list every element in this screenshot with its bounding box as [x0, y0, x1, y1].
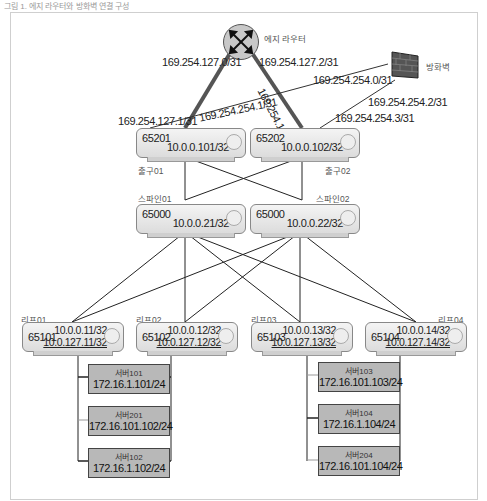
- firewall-icon: [388, 50, 420, 80]
- link-label: 169.254.127.2/31: [259, 56, 338, 68]
- router-icon: [447, 328, 463, 344]
- router-icon: [340, 210, 356, 226]
- ip-label: 10.0.0.101/32: [167, 141, 229, 153]
- link-label: 169.254.254.3/31: [335, 112, 414, 124]
- server-name: 서버101: [89, 367, 169, 378]
- server-name: 서버103: [319, 365, 399, 376]
- leaf-router-4: 65104 10.0.0.14/32 10.0.127.14/32: [365, 322, 467, 352]
- edge-router-label: 에지 라우터: [264, 32, 306, 44]
- server-name: 서버201: [89, 409, 169, 420]
- server-ip: 172.16.1.101/24: [89, 378, 169, 390]
- ip-label: 10.0.0.12/32: [167, 324, 221, 336]
- server-ip: 172.16.101.102/24: [89, 420, 169, 432]
- router-base: [261, 233, 349, 238]
- server-ip: 172.16.1.102/24: [89, 462, 169, 474]
- router-base: [261, 157, 349, 162]
- router-icon: [340, 134, 356, 150]
- router-base: [147, 233, 235, 238]
- server-ip: 172.16.1.104/24: [319, 418, 399, 430]
- firewall-label: 방화벽: [426, 60, 450, 72]
- router-base: [376, 351, 456, 356]
- router-icon: [226, 210, 242, 226]
- server-box: 서버101 172.16.1.101/24: [88, 364, 170, 394]
- router-base: [262, 351, 342, 356]
- exit-label: 출구01: [138, 164, 163, 176]
- ip-label: 10.0.0.11/32: [54, 324, 107, 336]
- asn-label: 65000: [142, 208, 171, 220]
- spine-label: 스파인02: [316, 192, 349, 204]
- ip-label: 10.0.127.11/32: [43, 336, 107, 348]
- router-base: [147, 351, 227, 356]
- link-label: 169.254.254.0/31: [313, 74, 392, 86]
- ip-label: 10.0.0.21/32: [173, 217, 229, 229]
- leaf-router-1: 65101 10.0.0.11/32 10.0.127.11/32: [22, 322, 124, 352]
- link-label: 169.254.127.0/31: [162, 56, 241, 68]
- server-box: 서버204 172.16.101.104/24: [318, 446, 400, 476]
- link-label: 169.254.254.2/31: [368, 96, 447, 108]
- exit-label: 출구02: [325, 164, 350, 176]
- ip-label: 10.0.0.13/32: [282, 324, 336, 336]
- server-ip: 172.16.101.103/24: [319, 376, 399, 388]
- router-icon: [333, 328, 349, 344]
- spine-label: 스파인01: [138, 192, 171, 204]
- router-base: [33, 351, 113, 356]
- leaf-router-2: 65102 10.0.0.12/32 10.0.127.12/32: [136, 322, 238, 352]
- leaf-router-3: 65103 10.0.0.13/32 10.0.127.13/32: [251, 322, 353, 352]
- ip-label: 10.0.127.12/32: [157, 336, 221, 348]
- ip-label: 10.0.0.102/32: [281, 141, 343, 153]
- server-box: 서버104 172.16.1.104/24: [318, 404, 400, 434]
- router-icon: [218, 328, 234, 344]
- server-name: 서버102: [89, 451, 169, 462]
- ip-label: 10.0.127.13/32: [272, 336, 336, 348]
- server-name: 서버204: [319, 449, 399, 460]
- exit-router-2: 65202 10.0.0.102/32: [250, 128, 360, 158]
- edge-router-icon: [223, 24, 259, 60]
- spine-router-1: 65000 10.0.0.21/32: [136, 204, 246, 234]
- ip-label: 10.0.127.14/32: [386, 336, 450, 348]
- server-box: 서버102 172.16.1.102/24: [88, 448, 170, 478]
- router-icon: [104, 328, 120, 344]
- server-name: 서버104: [319, 407, 399, 418]
- asn-label: 65000: [256, 208, 285, 220]
- server-ip: 172.16.101.104/24: [319, 460, 399, 472]
- ip-label: 10.0.0.14/32: [396, 324, 450, 336]
- ip-label: 10.0.0.22/32: [287, 217, 343, 229]
- server-box: 서버201 172.16.101.102/24: [88, 406, 170, 436]
- exit-router-1: 65201 10.0.0.101/32: [136, 128, 246, 158]
- router-base: [147, 157, 235, 162]
- server-box: 서버103 172.16.101.103/24: [318, 362, 400, 392]
- spine-router-2: 65000 10.0.0.22/32: [250, 204, 360, 234]
- link-label: 169.254.127.1/31: [118, 115, 197, 127]
- router-icon: [226, 134, 242, 150]
